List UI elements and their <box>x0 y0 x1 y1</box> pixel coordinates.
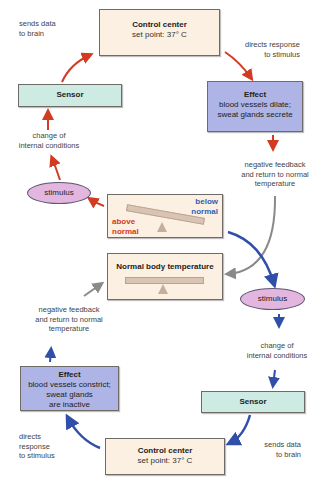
arrow-imbalance-to-stimulus <box>90 199 104 206</box>
arrow-effect-up <box>50 350 51 362</box>
effect-bottom: Effect blood vessels constrict; sweat gl… <box>20 366 119 411</box>
set-point-text: set point: 37° C <box>132 30 187 39</box>
imbalance-box: abovenormal belownormal <box>107 194 223 238</box>
set-point-text: set point: 37° C <box>138 456 193 465</box>
arrow-control-to-effect-bottom <box>68 418 100 448</box>
normal-temperature-box: Normal body temperature <box>107 253 223 300</box>
arrows-layer <box>0 0 325 486</box>
fulcrum-icon <box>157 222 167 232</box>
directs-response-label-bottom: directsresponseto stimulus <box>19 432 55 461</box>
change-conditions-label-bottom: change ofinternal conditions <box>240 341 314 360</box>
control-center-bottom: Control center set point: 37° C <box>105 438 225 475</box>
stimulus-bottom: stimulus <box>240 288 305 310</box>
effect-top: Effect blood vessels dilate; sweat gland… <box>207 81 303 132</box>
arrow-sensor-to-control <box>62 55 90 82</box>
negative-feedback-label-top: negative feedbackand return to normaltem… <box>234 160 316 189</box>
sensor-bottom: Sensor <box>201 391 305 413</box>
fulcrum-icon <box>158 284 168 294</box>
sends-data-label-bottom: sends datato brain <box>264 440 301 459</box>
arrow-change-to-sensor-bottom <box>273 370 275 385</box>
control-center-top: Control center set point: 37° C <box>99 9 220 56</box>
above-normal-label: abovenormal <box>112 217 139 237</box>
arrow-stimulus-to-change <box>52 158 60 180</box>
arrow-imbalance-to-stimulus-bottom <box>228 232 274 284</box>
seesaw-beam-level <box>125 277 204 284</box>
control-center-title: Control center <box>106 446 224 456</box>
sensor-top: Sensor <box>18 84 122 107</box>
control-center-title: Control center <box>100 20 219 30</box>
normal-temperature-title: Normal body temperature <box>108 262 222 272</box>
directs-response-label-top: directs responseto stimulus <box>245 40 300 59</box>
arrow-sensor-to-control-bottom <box>230 415 250 443</box>
stimulus-top: stimulus <box>27 182 91 204</box>
change-conditions-label-top: change ofinternal conditions <box>14 131 84 150</box>
sends-data-label-top: sends datato brain <box>19 19 56 38</box>
below-normal-label: belownormal <box>191 197 218 217</box>
arrow-feedback-bottom <box>84 284 101 296</box>
negative-feedback-label-bottom: negative feedbackand return to normaltem… <box>28 305 110 334</box>
